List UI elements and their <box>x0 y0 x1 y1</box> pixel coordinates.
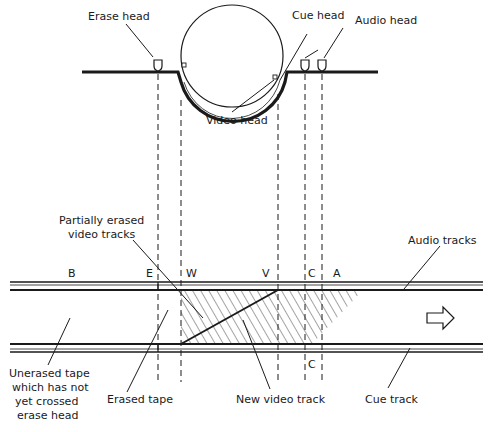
partially-erased-label-line1: Partially erased <box>59 214 144 227</box>
drum-marker-left <box>182 63 186 67</box>
partially-erased-label-line2: video tracks <box>68 228 136 241</box>
partially-erased-video-tracks-region <box>181 290 363 344</box>
audio-head-label: Audio head <box>355 14 417 27</box>
cue-track-label: Cue track <box>365 393 419 406</box>
erase-head-icon <box>154 60 162 71</box>
position-letter-w: W <box>186 267 197 280</box>
unerased-tape-label-line1: Unerased tape <box>9 367 90 380</box>
video-head-label: Video head <box>206 114 268 127</box>
position-letter-c: C <box>308 267 316 280</box>
unerased-tape-label-line3: yet crossed <box>15 395 78 408</box>
erase-head-label: Erase head <box>88 10 150 23</box>
cue-head-icon <box>301 60 309 71</box>
vtr-diagram: Erase head Cue head Audio head Video hea… <box>0 0 493 432</box>
audio-head-icon <box>318 60 326 71</box>
position-letter-a: A <box>333 267 341 280</box>
unerased-tape-label-line2: which has not <box>12 381 89 394</box>
audio-tracks-label: Audio tracks <box>408 234 477 247</box>
cue-head-label: Cue head <box>292 9 344 22</box>
new-video-track-label: New video track <box>236 393 326 406</box>
position-letter-c-bottom: C <box>308 358 316 371</box>
position-letter-b: B <box>68 267 76 280</box>
unerased-tape-label-line4: erase head <box>17 409 79 422</box>
erased-tape-label: Erased tape <box>107 393 173 406</box>
tape-direction-arrow-icon <box>427 307 454 329</box>
video-head-marker <box>273 75 277 79</box>
position-letter-e: E <box>146 267 153 280</box>
position-letter-v: V <box>262 267 270 280</box>
